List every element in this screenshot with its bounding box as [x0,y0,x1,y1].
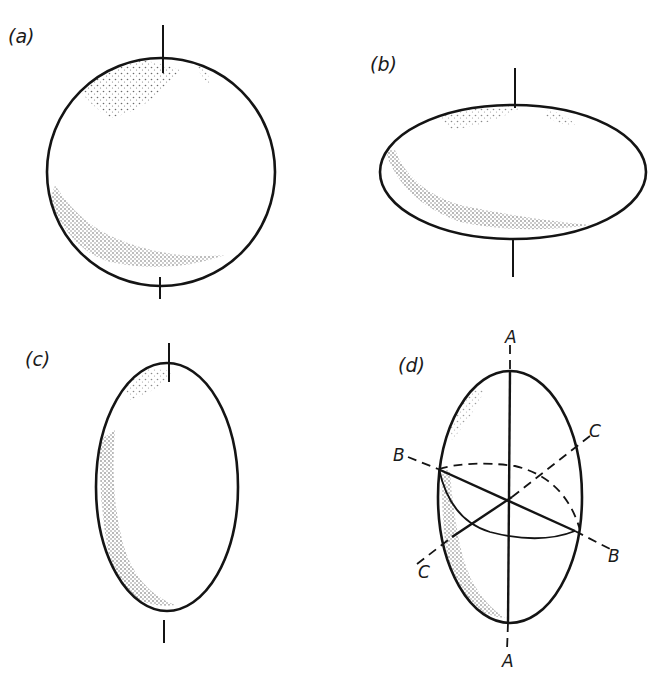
axis-label-a-top: A [504,327,517,347]
axis-label-c-lower: C [418,562,430,582]
axis-label-c-upper: C [589,421,601,441]
axis-label-b-right: B [608,546,620,566]
sphere-shading [50,60,225,267]
panel-c-label: (c) [25,348,50,370]
panel-a-label: (a) [8,25,34,47]
panel-a: (a) [8,25,275,299]
axis-label-b-left: B [393,445,405,465]
ellipsoid-figure: (a) (b) (c) (d) [0,0,655,679]
oblate-shading [385,105,590,229]
sphere-outline [47,58,275,286]
panel-d-label: (d) [398,354,425,376]
prolate-shading [100,369,175,606]
panel-b: (b) [370,53,646,277]
prolate-outline [96,363,238,611]
panel-b-label: (b) [370,53,397,75]
axis-label-a-bottom: A [501,651,514,671]
panel-d: (d) A A B B [393,327,620,671]
panel-c: (c) [25,343,238,643]
